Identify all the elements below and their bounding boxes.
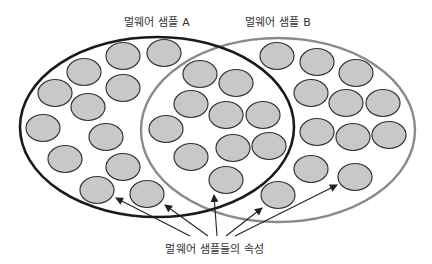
attributes-label: 멀웨어 샘플들의 속성 bbox=[165, 240, 264, 256]
sample-attribute-node bbox=[252, 133, 286, 160]
sample-attribute-node bbox=[219, 70, 253, 97]
venn-diagram bbox=[0, 0, 432, 264]
sample-attribute-node bbox=[209, 167, 243, 194]
sample-attribute-nodes bbox=[26, 40, 406, 209]
sample-attribute-node bbox=[209, 102, 243, 129]
sample-attribute-node bbox=[294, 156, 328, 183]
sample-attribute-node bbox=[300, 49, 334, 76]
sample-attribute-node bbox=[372, 122, 406, 149]
sample-attribute-node bbox=[338, 164, 372, 191]
sample-attribute-node bbox=[89, 124, 123, 151]
sample-attribute-node bbox=[106, 75, 140, 102]
sample-attribute-node bbox=[80, 177, 114, 204]
sample-attribute-node bbox=[261, 182, 295, 209]
sample-attribute-node bbox=[294, 80, 328, 107]
sample-attribute-node bbox=[38, 80, 72, 107]
sample-attribute-node bbox=[183, 61, 217, 88]
sample-attribute-node bbox=[67, 59, 101, 86]
sample-attribute-node bbox=[106, 154, 140, 181]
sample-attribute-node bbox=[149, 116, 183, 143]
sample-attribute-node bbox=[216, 135, 250, 162]
sample-attribute-node bbox=[48, 146, 82, 173]
sample-attribute-node bbox=[106, 43, 140, 70]
arrow-icon bbox=[165, 205, 208, 236]
sample-attribute-node bbox=[300, 119, 334, 146]
sample-attribute-node bbox=[130, 181, 164, 208]
sample-attribute-node bbox=[260, 43, 294, 70]
sample-attribute-node bbox=[174, 91, 208, 118]
sample-attribute-node bbox=[147, 40, 181, 67]
sample-attribute-node bbox=[339, 60, 373, 87]
arrow-icon bbox=[214, 195, 217, 236]
sample-attribute-node bbox=[336, 124, 370, 151]
sample-attribute-node bbox=[366, 90, 400, 117]
sample-attribute-node bbox=[246, 102, 280, 129]
sample-attribute-node bbox=[174, 144, 208, 171]
sample-attribute-node bbox=[329, 90, 363, 117]
sample-attribute-node bbox=[26, 115, 60, 142]
sample-attribute-node bbox=[71, 94, 105, 121]
